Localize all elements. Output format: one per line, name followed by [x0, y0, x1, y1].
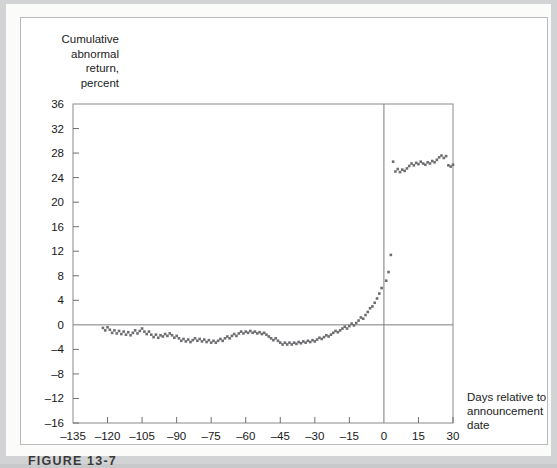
data-point: [171, 334, 174, 337]
data-point: [281, 343, 284, 346]
data-point: [323, 336, 326, 339]
y-axis-tick-label: 16: [51, 221, 64, 233]
data-point: [452, 163, 455, 166]
data-point: [208, 339, 211, 342]
figure-frame: Cumulative abnormal return, percent –16–…: [20, 17, 548, 445]
data-point: [228, 337, 231, 340]
data-point: [304, 341, 307, 344]
y-axis-tick-label: 4: [58, 294, 65, 306]
data-point: [438, 156, 441, 159]
data-point: [307, 340, 310, 343]
data-point: [198, 338, 201, 341]
data-point: [221, 340, 224, 343]
data-point: [109, 328, 112, 331]
data-point: [415, 162, 418, 165]
data-point: [433, 161, 436, 164]
data-point: [311, 339, 314, 342]
data-point: [240, 330, 243, 333]
x-axis-tick-label: –135: [60, 430, 86, 442]
data-point: [150, 333, 153, 336]
data-point: [399, 171, 402, 174]
data-point: [295, 343, 298, 346]
data-point: [263, 332, 266, 335]
data-point: [270, 337, 273, 340]
x-axis-tick-label: –90: [167, 430, 186, 442]
data-point: [392, 160, 395, 163]
data-point: [247, 332, 250, 335]
data-point: [201, 340, 204, 343]
x-axis-title-line: Days relative to: [467, 391, 546, 403]
plot-frame: [73, 104, 453, 423]
data-point: [203, 338, 206, 341]
x-axis-tick-label: –60: [236, 430, 255, 442]
data-point: [385, 279, 388, 282]
x-axis-tick-label: –15: [340, 430, 359, 442]
data-point: [373, 301, 376, 304]
data-point: [196, 340, 199, 343]
data-point: [431, 160, 434, 163]
y-axis-tick-label: 0: [58, 319, 64, 331]
data-point: [249, 330, 252, 333]
data-point: [178, 337, 181, 340]
data-point: [187, 338, 190, 341]
y-axis-tick-label: 32: [51, 123, 64, 135]
x-axis-tick-label: –30: [305, 430, 324, 442]
data-point: [343, 325, 346, 328]
data-point: [396, 168, 399, 171]
data-point: [189, 341, 192, 344]
y-axis-tick-label: –16: [45, 417, 64, 429]
data-point: [104, 329, 107, 332]
data-point: [390, 254, 393, 257]
x-axis-tick-label: –45: [271, 430, 290, 442]
data-point: [339, 329, 342, 332]
data-point: [436, 159, 439, 162]
data-point: [334, 330, 337, 333]
data-point: [417, 163, 420, 166]
data-point: [159, 334, 162, 337]
data-point: [327, 335, 330, 338]
data-point: [408, 165, 411, 168]
data-point: [256, 332, 259, 335]
data-point: [148, 330, 151, 333]
data-point: [320, 338, 323, 341]
data-point: [394, 170, 397, 173]
data-point: [318, 336, 321, 339]
data-point: [297, 341, 300, 344]
x-axis-tick-label: 30: [447, 430, 460, 442]
data-point: [226, 335, 229, 338]
data-point: [355, 322, 358, 325]
page-sheet: Cumulative abnormal return, percent –16–…: [6, 4, 551, 456]
data-point: [129, 334, 132, 337]
data-point: [449, 165, 452, 168]
data-point: [267, 335, 270, 338]
data-point: [157, 336, 160, 339]
data-point: [180, 340, 183, 343]
data-point: [360, 316, 363, 319]
data-point: [401, 168, 404, 171]
data-point: [369, 307, 372, 310]
data-point: [288, 341, 291, 344]
data-point: [302, 340, 305, 343]
data-point: [224, 337, 227, 340]
y-axis-tick-label: –12: [45, 392, 64, 404]
data-point: [362, 317, 365, 320]
data-point: [364, 314, 367, 317]
data-point: [115, 332, 118, 335]
data-point: [173, 336, 176, 339]
data-point: [145, 333, 148, 336]
data-point: [353, 324, 356, 327]
data-point: [341, 327, 344, 330]
data-point: [272, 339, 275, 342]
data-point: [410, 162, 413, 165]
data-point: [122, 330, 125, 333]
data-point: [102, 327, 105, 330]
data-point: [168, 332, 171, 335]
data-point: [212, 340, 215, 343]
data-point: [261, 333, 264, 336]
data-point: [238, 332, 241, 335]
data-point: [314, 340, 317, 343]
x-axis-title-line: date: [467, 419, 489, 431]
data-point: [300, 342, 303, 345]
data-point: [214, 341, 217, 344]
